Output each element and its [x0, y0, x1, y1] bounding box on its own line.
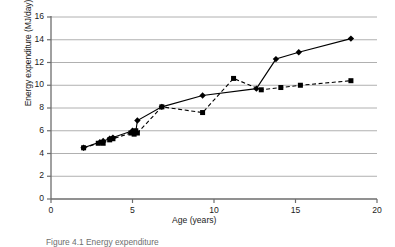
axis-lines	[51, 16, 377, 199]
data-point-diamond	[348, 35, 354, 41]
y-tick-label: 12	[18, 58, 44, 67]
series-2	[81, 76, 353, 150]
figure-caption: Figure 4.1 Energy expenditure	[46, 237, 159, 247]
data-point-square	[231, 76, 236, 81]
data-point-square	[96, 141, 101, 146]
x-tick-label: 20	[365, 206, 389, 215]
data-series-layer	[80, 35, 354, 151]
data-point-diamond	[273, 56, 279, 62]
data-point-square	[278, 85, 283, 90]
data-point-diamond	[134, 117, 140, 123]
data-point-square	[348, 78, 353, 83]
data-point-square	[110, 136, 115, 141]
data-point-diamond	[199, 92, 205, 98]
data-point-square	[101, 141, 106, 146]
x-tick-label: 15	[284, 206, 308, 215]
data-point-square	[159, 104, 164, 109]
x-tick-label: 10	[202, 206, 226, 215]
data-point-square	[81, 145, 86, 150]
data-point-square	[298, 83, 303, 88]
data-point-diamond	[296, 49, 302, 55]
y-tick-label: 4	[18, 149, 44, 158]
y-tick-label: 14	[18, 35, 44, 44]
series-1	[80, 35, 354, 151]
y-tick-label: 2	[18, 171, 44, 180]
series-line	[84, 78, 351, 147]
data-point-square	[259, 87, 264, 92]
y-tick-label: 0	[18, 194, 44, 203]
x-tick-label: 5	[121, 206, 145, 215]
y-tick-label: 10	[18, 80, 44, 89]
data-point-square	[200, 110, 205, 115]
y-tick-label: 8	[18, 103, 44, 112]
data-point-square	[135, 131, 140, 136]
gridlines	[51, 17, 377, 176]
x-tick-label: 0	[39, 206, 63, 215]
y-tick-label: 16	[18, 12, 44, 21]
series-line	[84, 39, 351, 148]
figure-root: Energy expenditure (MJ/day) Age (years) …	[0, 0, 395, 247]
y-tick-label: 6	[18, 126, 44, 135]
